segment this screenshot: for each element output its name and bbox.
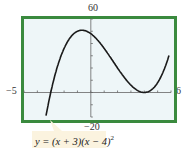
function-label: y = (x + 3)(x − 4)2 (35, 134, 114, 147)
function-label-exponent: 2 (110, 134, 114, 142)
function-callout: y = (x + 3)(x − 4)2 (32, 131, 106, 148)
axes (24, 19, 171, 117)
callout-pointer (50, 120, 62, 131)
function-curve (46, 30, 169, 115)
function-label-base: y = (x + 3)(x − 4) (35, 136, 110, 147)
